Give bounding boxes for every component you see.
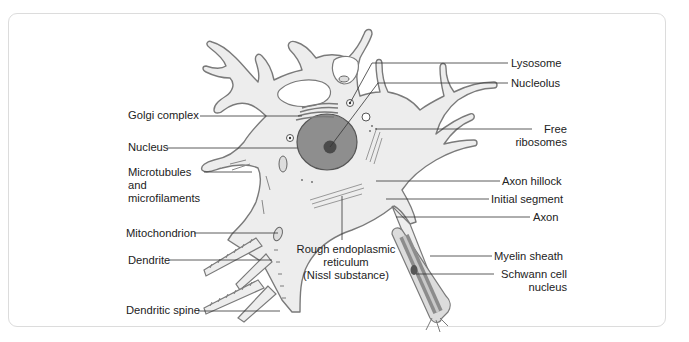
label-rough-er-line3: (Nissl substance) [290, 269, 402, 282]
neuron-illustration [0, 0, 689, 342]
label-rough-er-line1: Rough endoplasmic [290, 243, 402, 256]
label-schwann-line2: nucleus [480, 281, 567, 294]
label-rough-er-line2: reticulum [290, 256, 402, 269]
label-free-ribosomes-line1: Free [490, 123, 567, 136]
label-microtubules-line2: and [128, 179, 200, 192]
label-nucleus: Nucleus [128, 141, 168, 154]
label-schwann-line1: Schwann cell [480, 268, 567, 281]
label-free-ribosomes-line2: ribosomes [490, 136, 567, 149]
label-axon: Axon [533, 211, 559, 224]
label-microtubules: Microtubules and microfilaments [128, 166, 200, 205]
label-microtubules-line1: Microtubules [128, 166, 200, 179]
label-mitochondrion: Mitochondrion [126, 227, 196, 240]
label-axon-hillock: Axon hillock [502, 175, 562, 188]
label-free-ribosomes: Free ribosomes [490, 123, 567, 149]
label-schwann-cell-nucleus: Schwann cell nucleus [480, 268, 567, 294]
label-myelin-sheath: Myelin sheath [494, 250, 563, 263]
schwann-nucleus-shape [411, 265, 418, 275]
label-dendrite: Dendrite [128, 254, 170, 267]
label-nucleolus: Nucleolus [511, 77, 560, 90]
label-initial-segment: Initial segment [491, 193, 563, 206]
label-dendritic-spine: Dendritic spine [126, 304, 200, 317]
label-microtubules-line3: microfilaments [128, 192, 200, 205]
label-rough-er: Rough endoplasmic reticulum (Nissl subst… [290, 243, 402, 282]
label-golgi-complex: Golgi complex [128, 109, 199, 122]
label-lysosome: Lysosome [511, 57, 562, 70]
